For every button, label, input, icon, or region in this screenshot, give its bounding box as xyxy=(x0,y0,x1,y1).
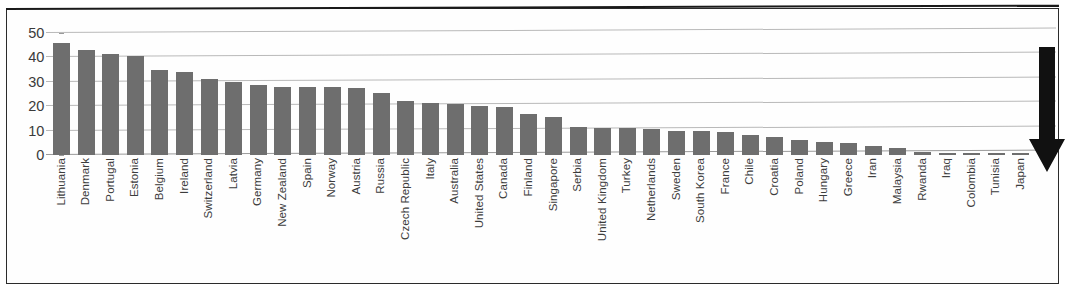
x-axis-label: Croatia xyxy=(769,158,781,196)
y-axis-tick-0: 0 xyxy=(14,148,44,163)
bar xyxy=(939,153,956,155)
bar xyxy=(250,85,267,155)
x-axis-labels: LithuaniaDenmarkPortugalEstoniaBelgiumIr… xyxy=(46,158,1056,268)
bar xyxy=(78,50,95,155)
bar xyxy=(176,72,193,155)
bar xyxy=(889,148,906,155)
bar xyxy=(102,54,119,155)
bar xyxy=(274,87,291,155)
x-axis-label: France xyxy=(720,158,732,194)
x-axis-label: Norway xyxy=(326,158,338,198)
chart-figure: 01020304050 LithuaniaDenmarkPortugalEsto… xyxy=(0,0,1069,298)
y-axis-tickmark-0 xyxy=(59,155,64,156)
x-axis-label: Chile xyxy=(744,158,756,185)
bar xyxy=(397,101,414,155)
x-axis-label: Netherlands xyxy=(646,158,658,221)
bar xyxy=(791,140,808,155)
bar xyxy=(619,128,636,155)
x-axis-label: Estonia xyxy=(129,158,141,197)
bar xyxy=(520,114,537,155)
bar-series xyxy=(46,33,1056,155)
x-axis-label: Greece xyxy=(843,158,855,196)
x-axis-label: Spain xyxy=(302,158,314,188)
x-axis-label: Canada xyxy=(498,158,510,199)
bar xyxy=(840,143,857,155)
x-axis-label: United Kingdom xyxy=(597,158,609,241)
bar xyxy=(447,104,464,155)
bar xyxy=(693,131,710,155)
x-axis-label: Belgium xyxy=(154,158,166,200)
bar xyxy=(422,103,439,155)
bar xyxy=(299,87,316,155)
bar xyxy=(127,56,144,155)
x-axis-label: Serbia xyxy=(572,158,584,192)
bar xyxy=(545,117,562,155)
bar xyxy=(471,106,488,155)
x-axis-label: Denmark xyxy=(80,158,92,205)
x-axis-label: Colombia xyxy=(966,158,978,207)
bar xyxy=(225,82,242,155)
y-axis-tick-40: 40 xyxy=(14,50,44,65)
x-axis-label: Poland xyxy=(794,158,806,194)
x-axis-label: Austria xyxy=(351,158,363,195)
bar xyxy=(963,153,980,155)
bar xyxy=(324,87,341,155)
bar xyxy=(717,132,734,155)
y-axis-tick-50: 50 xyxy=(14,26,44,41)
x-axis-label: Italy xyxy=(425,158,437,180)
x-axis-label: Ireland xyxy=(179,158,191,194)
bar xyxy=(643,129,660,155)
x-axis-label: Sweden xyxy=(671,158,683,200)
bar xyxy=(988,153,1005,155)
x-axis-label: New Zealand xyxy=(277,158,289,227)
bar xyxy=(53,43,70,155)
x-axis-label: South Korea xyxy=(695,158,707,223)
x-axis-label: Iran xyxy=(867,158,879,178)
bar xyxy=(151,70,168,155)
bar xyxy=(668,131,685,155)
x-axis-label: Germany xyxy=(252,158,264,206)
bar xyxy=(496,107,513,155)
bar xyxy=(348,88,365,155)
bar xyxy=(742,135,759,155)
x-axis-label: Lithuania xyxy=(56,158,68,206)
x-axis-label: Iraq xyxy=(941,158,953,178)
x-axis-label: Turkey xyxy=(621,158,633,193)
x-axis-label: Hungary xyxy=(818,158,830,202)
x-axis-label: Rwanda xyxy=(917,158,929,201)
x-axis-label: Russia xyxy=(375,158,387,194)
x-axis-label: Portugal xyxy=(105,158,117,202)
bar xyxy=(594,128,611,155)
bar xyxy=(1012,153,1029,155)
y-axis-tick-20: 20 xyxy=(14,99,44,114)
bar xyxy=(373,93,390,155)
x-axis-label: United States xyxy=(474,158,486,228)
y-axis-tick-30: 30 xyxy=(14,75,44,90)
x-axis-label: Czech Republic xyxy=(400,158,412,240)
y-axis: 01020304050 xyxy=(14,24,44,164)
x-axis-label: Tunisia xyxy=(990,158,1002,195)
y-axis-tick-10: 10 xyxy=(14,123,44,138)
bar xyxy=(816,142,833,155)
x-axis-label: Switzerland xyxy=(203,158,215,219)
x-axis-label: Australia xyxy=(449,158,461,204)
x-axis-label: Malaysia xyxy=(892,158,904,204)
x-axis-label: Singapore xyxy=(548,158,560,211)
x-axis-label: Latvia xyxy=(228,158,240,189)
bar xyxy=(570,127,587,155)
x-axis-label: Finland xyxy=(523,158,535,196)
bar xyxy=(201,79,218,155)
bar xyxy=(865,146,882,155)
x-axis-label: Japan xyxy=(1015,158,1027,190)
bar xyxy=(914,152,931,155)
bar xyxy=(766,137,783,155)
